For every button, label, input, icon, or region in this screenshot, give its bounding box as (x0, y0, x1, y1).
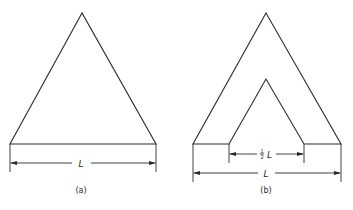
arrow-left-icon (10, 161, 17, 165)
arrow-right-icon (149, 161, 156, 165)
arrow-right-icon (297, 152, 304, 156)
outer-dimension-label: L (263, 169, 268, 179)
inner-dimension-symbol: L (267, 150, 272, 160)
arrow-right-icon (334, 171, 341, 175)
fraction-denominator: 2 (260, 154, 263, 160)
arrow-left-icon (229, 152, 236, 156)
triangle-a (10, 13, 156, 144)
figure-b: 1 2 L L (b) (193, 13, 341, 195)
caption-a: (a) (75, 186, 86, 195)
dimension-b-inner: 1 2 L (229, 144, 304, 163)
figure-a: L (a) (10, 13, 156, 195)
dimension-a: L (10, 144, 156, 172)
arrow-left-icon (193, 171, 200, 175)
diagram-canvas: L (a) 1 2 L L (b) (0, 0, 353, 210)
notched-triangle-b (193, 13, 341, 144)
caption-b: (b) (260, 186, 271, 195)
dimension-label-a: L (78, 159, 83, 169)
